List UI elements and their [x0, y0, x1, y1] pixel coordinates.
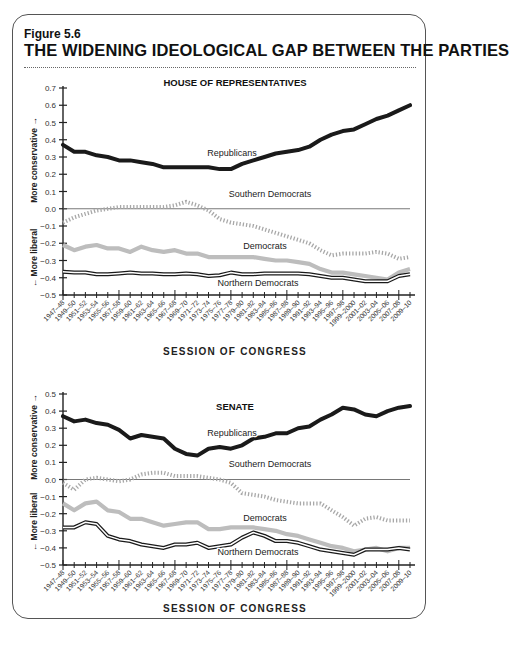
series-label-democrats: Democrats — [243, 513, 287, 523]
series-southern-democrats — [63, 473, 410, 526]
y-tick-label: −0.4 — [40, 544, 56, 553]
y-tick-label: −0.1 — [40, 493, 56, 502]
y-axis-label-liberal: ← More liberal — [29, 493, 39, 552]
y-tick-label: −0.5 — [40, 561, 56, 570]
x-axis-title: SESSION OF CONGRESS — [163, 603, 307, 614]
y-tick-label: 0.2 — [45, 441, 57, 450]
chart-title: SENATE — [216, 401, 254, 412]
y-tick-label: 0.5 — [45, 390, 57, 399]
y-axis-label-conservative: More conservative → — [29, 394, 39, 480]
series-label-southern-democrats: Southern Democrats — [229, 459, 312, 469]
series-democrats — [63, 502, 410, 552]
series-label-northern-democrats: Northern Democrats — [217, 547, 299, 557]
y-tick-label: −0.3 — [40, 527, 56, 536]
series-label-republicans: Republicans — [207, 428, 257, 438]
y-tick-label: 0.3 — [45, 424, 57, 433]
y-tick-label: 0.4 — [45, 407, 57, 416]
y-tick-label: 0.0 — [45, 476, 57, 485]
y-tick-label: −0.2 — [40, 510, 56, 519]
y-tick-label: 0.1 — [45, 458, 57, 467]
